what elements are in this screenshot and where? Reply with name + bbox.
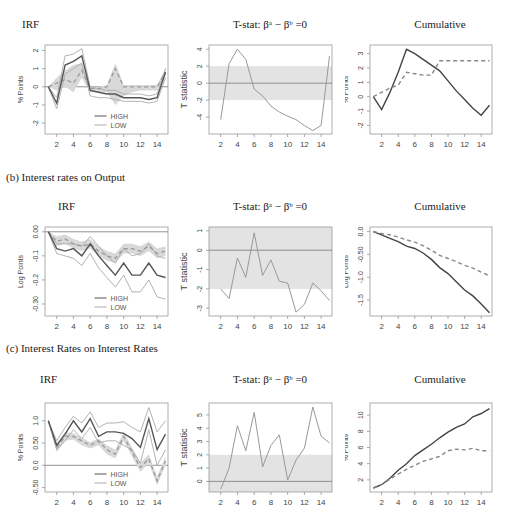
svg-text:T statistic: T statistic xyxy=(179,70,189,108)
chart-b-cum: 24681012140.0-0.50-1.0-1.5Log Points xyxy=(345,222,512,337)
svg-text:10: 10 xyxy=(444,498,453,507)
svg-text:-0.2: -0.2 xyxy=(32,274,39,286)
svg-text:10: 10 xyxy=(283,322,292,331)
svg-text:12: 12 xyxy=(460,322,469,331)
svg-text:Log Points: Log Points xyxy=(345,254,350,288)
panel-title-b-irf: IRF xyxy=(58,200,75,212)
svg-text:0: 0 xyxy=(32,85,39,89)
svg-text:8: 8 xyxy=(357,429,364,433)
svg-text:2: 2 xyxy=(196,64,203,68)
svg-text:6: 6 xyxy=(252,498,257,507)
svg-text:0: 0 xyxy=(196,81,203,85)
svg-text:-0.1: -0.1 xyxy=(32,250,39,262)
chart-a-tstat: 2468101214-4-2024T statistic xyxy=(175,40,345,155)
svg-text:6: 6 xyxy=(413,322,418,331)
svg-text:12: 12 xyxy=(300,498,309,507)
svg-text:10: 10 xyxy=(357,411,364,419)
svg-text:8: 8 xyxy=(269,498,274,507)
svg-text:0.00: 0.00 xyxy=(32,225,39,239)
svg-text:14: 14 xyxy=(153,498,162,507)
svg-text:-2: -2 xyxy=(32,120,39,126)
svg-text:2: 2 xyxy=(32,48,39,52)
svg-text:12: 12 xyxy=(460,140,469,149)
chart-c-tstat: 2468101214012345T statistic xyxy=(175,398,345,513)
svg-text:10: 10 xyxy=(444,322,453,331)
svg-text:0: 0 xyxy=(357,95,364,99)
svg-text:12: 12 xyxy=(136,140,145,149)
svg-text:12: 12 xyxy=(300,140,309,149)
svg-text:2: 2 xyxy=(379,498,384,507)
svg-text:12: 12 xyxy=(136,498,145,507)
svg-text:-1: -1 xyxy=(357,108,364,114)
svg-text:4: 4 xyxy=(71,498,76,507)
panel-title-b-tstat: T-stat: βᵃ − βᵇ =0 xyxy=(200,200,340,212)
svg-text:8: 8 xyxy=(429,140,434,149)
svg-text:0.0: 0.0 xyxy=(357,227,364,237)
svg-text:10: 10 xyxy=(444,140,453,149)
svg-text:-3: -3 xyxy=(196,305,203,311)
svg-text:2: 2 xyxy=(218,322,223,331)
svg-text:8: 8 xyxy=(105,140,110,149)
svg-text:1: 1 xyxy=(196,466,203,470)
svg-text:4: 4 xyxy=(71,322,76,331)
svg-text:-1.5: -1.5 xyxy=(357,294,364,306)
chart-a-irf: 2468101214-2-1012% PointsHIGHLOW xyxy=(0,40,170,155)
panel-title-b-cum: Cumulative xyxy=(370,200,510,212)
svg-text:-2: -2 xyxy=(357,122,364,128)
svg-text:4: 4 xyxy=(357,462,364,466)
svg-text:1: 1 xyxy=(196,229,203,233)
svg-text:2: 2 xyxy=(54,498,59,507)
svg-text:4: 4 xyxy=(235,322,240,331)
svg-text:Log Points: Log Points xyxy=(17,254,25,288)
svg-text:14: 14 xyxy=(153,140,162,149)
svg-text:% Points: % Points xyxy=(17,433,24,461)
svg-text:10: 10 xyxy=(283,498,292,507)
svg-text:-1: -1 xyxy=(32,102,39,108)
panel-title-a-tstat: T-stat: βᵃ − βᵇ =0 xyxy=(200,18,340,30)
svg-text:8: 8 xyxy=(105,498,110,507)
svg-text:14: 14 xyxy=(317,322,326,331)
svg-text:T statistic: T statistic xyxy=(179,252,189,290)
svg-text:12: 12 xyxy=(300,322,309,331)
svg-text:6: 6 xyxy=(252,140,257,149)
svg-text:0: 0 xyxy=(196,479,203,483)
svg-text:-2: -2 xyxy=(196,286,203,292)
svg-text:4: 4 xyxy=(235,498,240,507)
svg-text:2: 2 xyxy=(379,140,384,149)
svg-text:14: 14 xyxy=(477,322,486,331)
svg-text:-2: -2 xyxy=(196,97,203,103)
svg-text:% Points: % Points xyxy=(345,75,349,103)
svg-text:-0.50: -0.50 xyxy=(357,246,364,262)
svg-text:5: 5 xyxy=(196,413,203,417)
svg-text:8: 8 xyxy=(429,498,434,507)
svg-text:2: 2 xyxy=(218,140,223,149)
svg-text:2: 2 xyxy=(54,322,59,331)
chart-c-cum: 2468101214246810% Points xyxy=(345,398,512,513)
panel-title-c-tstat: T-stat: βᵃ − βᵇ =0 xyxy=(200,373,340,385)
svg-text:10: 10 xyxy=(119,140,128,149)
svg-text:2: 2 xyxy=(196,453,203,457)
svg-text:8: 8 xyxy=(429,322,434,331)
svg-text:14: 14 xyxy=(477,140,486,149)
svg-text:LOW: LOW xyxy=(111,304,127,311)
svg-text:2: 2 xyxy=(379,322,384,331)
svg-text:14: 14 xyxy=(317,140,326,149)
svg-text:LOW: LOW xyxy=(111,122,127,129)
svg-text:3: 3 xyxy=(357,52,364,56)
svg-text:3: 3 xyxy=(196,439,203,443)
chart-a-cum: 2468101214-2-10123% Points xyxy=(345,40,512,155)
svg-text:HIGH: HIGH xyxy=(111,471,129,478)
svg-text:4: 4 xyxy=(396,498,401,507)
chart-c-irf: 2468101214-0.500.00.501.0% PointsHIGHLOW xyxy=(0,398,170,513)
svg-text:4: 4 xyxy=(396,140,401,149)
chart-b-tstat: 2468101214-3-2-101T statistic xyxy=(175,222,345,337)
svg-text:-0.50: -0.50 xyxy=(32,479,39,495)
svg-text:-4: -4 xyxy=(196,114,203,120)
svg-text:6: 6 xyxy=(88,322,93,331)
svg-text:-1.0: -1.0 xyxy=(357,271,364,283)
section-b-label: (b) Interest rates on Output xyxy=(6,171,125,183)
svg-text:10: 10 xyxy=(119,322,128,331)
svg-text:1.0: 1.0 xyxy=(32,416,39,426)
svg-text:12: 12 xyxy=(136,322,145,331)
svg-text:14: 14 xyxy=(317,498,326,507)
